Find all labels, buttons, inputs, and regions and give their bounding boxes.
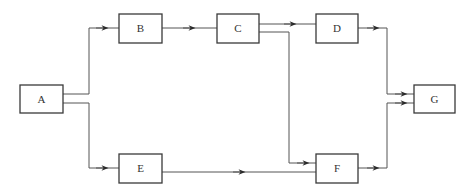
edge-d-g <box>358 28 414 94</box>
edge-c-f <box>259 32 316 163</box>
node-g-label: G <box>431 93 439 105</box>
flow-diagram: A B C D E F G <box>0 0 473 194</box>
node-a-label: A <box>38 93 46 105</box>
edge-a-b <box>63 28 119 94</box>
edge-a-e <box>63 103 119 168</box>
node-c-label: C <box>234 22 241 34</box>
node-e-label: E <box>137 162 144 174</box>
node-d-label: D <box>333 22 341 34</box>
node-b-label: B <box>137 22 144 34</box>
edge-f-g <box>358 103 414 168</box>
node-f-label: F <box>334 162 340 174</box>
